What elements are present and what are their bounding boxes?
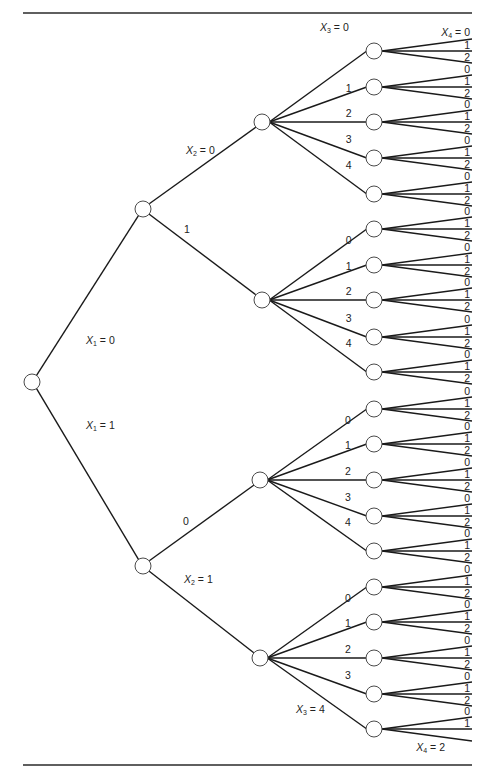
label-x4-1-2-2: 2 — [464, 300, 470, 312]
label-x4-0-2-2: 2 — [464, 122, 470, 134]
label-x4-3-3-1: 1 — [464, 682, 470, 694]
edge-x3-2-3 — [267, 480, 367, 516]
label-x3-1-1: 1 — [346, 260, 352, 272]
label-x4-3-4-0: 0 — [464, 705, 470, 717]
label-x4-0-4-1: 1 — [464, 182, 470, 194]
label-x4-0-2-0: 0 — [464, 98, 470, 110]
node-x3-2-4 — [366, 543, 382, 559]
node-x3-0-2 — [366, 114, 382, 130]
label-x2-eq-1: X2 = 1 — [183, 573, 213, 586]
label-x3-3-3: 3 — [345, 669, 351, 681]
edge-x4-1-3-2 — [382, 337, 472, 349]
edge-x4-3-1-0 — [382, 610, 472, 622]
edge-x4-1-4-0 — [382, 360, 472, 372]
edge-x4-0-4-0 — [382, 182, 472, 194]
edge-x3-0-3 — [269, 122, 367, 158]
node-x1-1 — [135, 558, 151, 574]
label-x4-1-1-0: 0 — [464, 241, 470, 253]
label-x4-1-3-1: 1 — [464, 325, 470, 337]
node-x2-0 — [254, 114, 270, 130]
edge-x3-3-4 — [267, 658, 367, 729]
label-x4-2-0-0: 0 — [464, 385, 470, 397]
edge-x4-1-2-2 — [382, 300, 472, 312]
edge-x4-1-2-0 — [382, 288, 472, 300]
label-x4-3-1-0: 0 — [464, 598, 470, 610]
node-x3-0-4 — [366, 186, 382, 202]
edge-x3-1-1 — [269, 265, 367, 300]
tree-svg: X1 = 0X1 = 1X2 = 010X2 = 1X3 = 012340123… — [0, 0, 495, 779]
label-x4-3-2-1: 1 — [464, 646, 470, 658]
label-x4-eq-0: X4 = 0 — [440, 26, 470, 39]
label-x4-1-0-0: 0 — [464, 205, 470, 217]
node-x3-1-2 — [366, 292, 382, 308]
node-x3-1-4 — [366, 364, 382, 380]
edge-x4-3-4-0 — [382, 717, 472, 729]
edge-x4-0-0-2 — [382, 51, 472, 63]
label-x3-3-0: 0 — [345, 592, 351, 604]
label-x4-3-1-1: 1 — [464, 610, 470, 622]
node-x1-0 — [135, 201, 151, 217]
edge-x4-2-0-2 — [382, 409, 472, 421]
node-x3-1-0 — [366, 221, 382, 237]
edge-x4-2-3-0 — [382, 504, 472, 516]
node-x3-1-1 — [366, 257, 382, 273]
label-x4-0-0-1: 1 — [464, 39, 470, 51]
node-x2-2 — [252, 472, 268, 488]
edge-x4-1-0-0 — [382, 217, 472, 229]
edge-x3-2-1 — [267, 444, 367, 480]
label-x3-eq-4: X3 = 4 — [295, 703, 325, 716]
label-x4-0-1-0: 0 — [464, 63, 470, 75]
edge-x4-0-1-2 — [382, 87, 472, 99]
label-x4-2-3-1: 1 — [464, 504, 470, 516]
edge-x2-2 — [149, 485, 255, 561]
label-x4-3-0-1: 1 — [464, 575, 470, 587]
node-x3-0-1 — [366, 79, 382, 95]
edge-x4-2-3-2 — [382, 516, 472, 528]
label-x4-3-1-2: 2 — [464, 622, 470, 634]
label-x1-eq-0: X1 = 0 — [85, 334, 115, 347]
label-x3-0-4: 4 — [346, 159, 352, 171]
label-x3-2-0: 0 — [345, 414, 351, 426]
node-x3-3-3 — [366, 686, 382, 702]
label-x4-1-3-0: 0 — [464, 313, 470, 325]
label-x4-2-2-0: 0 — [464, 456, 470, 468]
edge-x4-3-1-2 — [382, 622, 472, 634]
edge-x4-3-0-2 — [382, 587, 472, 599]
node-x3-2-1 — [366, 436, 382, 452]
edge-x4-1-1-0 — [382, 253, 472, 265]
edge-x1-0 — [36, 215, 138, 375]
node-x3-2-0 — [366, 401, 382, 417]
node-x3-3-0 — [366, 579, 382, 595]
edge-x4-3-2-2 — [382, 658, 472, 670]
label-x3-1-2: 2 — [346, 285, 352, 297]
label-x4-1-4-0: 0 — [464, 348, 470, 360]
edge-x3-1-3 — [269, 300, 367, 337]
edge-x4-2-4-0 — [382, 539, 472, 551]
label-x4-2-4-1: 1 — [464, 539, 470, 551]
label-x4-eq-2: X4 = 2 — [415, 741, 445, 754]
label-x3-3-2: 2 — [345, 643, 351, 655]
edge-x4-1-0-2 — [382, 229, 472, 241]
edge-x2-1 — [149, 214, 257, 295]
label-x4-1-4-1: 1 — [464, 360, 470, 372]
label-x4-1-2-0: 0 — [464, 276, 470, 288]
label-x3-1-4: 4 — [346, 337, 352, 349]
label-x3-2-4: 4 — [345, 516, 351, 528]
label-x3-2-1: 1 — [345, 439, 351, 451]
label-x4-0-4-0: 0 — [464, 170, 470, 182]
edge-x4-3-2-0 — [382, 646, 472, 658]
edge-x3-3-1 — [267, 622, 367, 658]
edge-x3-2-4 — [267, 480, 367, 551]
edge-x4-0-4-2 — [382, 194, 472, 206]
label-x4-1-0-2: 2 — [464, 229, 470, 241]
edge-x3-2-0 — [267, 409, 367, 480]
label-x4-0-1-1: 1 — [464, 75, 470, 87]
edge-x3-1-0 — [269, 229, 367, 300]
label-x3-0-1: 1 — [346, 82, 352, 94]
label-x4-0-3-0: 0 — [464, 134, 470, 146]
edge-x4-1-1-2 — [382, 265, 472, 277]
node-x3-3-2 — [366, 650, 382, 666]
edge-x1-1 — [36, 388, 138, 559]
edge-x4-3-3-0 — [382, 682, 472, 694]
label-x2-1-upper: 1 — [184, 223, 190, 235]
